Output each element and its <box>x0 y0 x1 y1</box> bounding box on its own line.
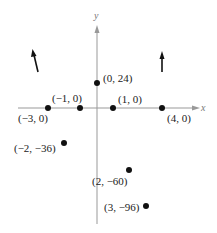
point-2-neg60 <box>126 167 132 173</box>
point-3-neg96 <box>143 203 149 209</box>
label-2-neg60: (2, −60) <box>92 176 128 187</box>
label-neg2-neg36: (−2, −36) <box>14 143 56 154</box>
point-neg3-0 <box>45 105 51 111</box>
left-end-behavior-arrow-icon <box>31 49 38 72</box>
point-4-0 <box>159 105 165 111</box>
point-0-24 <box>94 80 100 86</box>
x-axis-label: x <box>201 103 205 113</box>
label-3-neg96: (3, −96) <box>104 202 140 213</box>
label-4-0: (4, 0) <box>167 113 191 124</box>
label-neg1-0: (−1, 0) <box>52 93 82 104</box>
y-axis-label: y <box>94 11 98 21</box>
label-0-24: (0, 24) <box>103 73 132 84</box>
point-neg1-0 <box>77 105 83 111</box>
label-neg3-0: (−3, 0) <box>18 113 48 124</box>
x-axis-arrow-icon <box>192 106 200 111</box>
right-end-behavior-arrow-icon <box>160 51 165 72</box>
point-1-0 <box>110 105 116 111</box>
y-axis-arrow-icon <box>95 25 100 33</box>
point-neg2-neg36 <box>61 140 67 146</box>
label-1-0: (1, 0) <box>118 94 142 105</box>
